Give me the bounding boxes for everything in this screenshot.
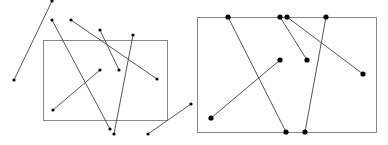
endpoint: [108, 127, 111, 130]
line-segment: [211, 60, 280, 118]
line-segment: [53, 70, 100, 110]
endpoint: [12, 78, 15, 81]
clip-rectangle: [198, 18, 377, 133]
endpoint: [117, 68, 120, 71]
endpoint: [304, 57, 309, 62]
line-segment: [280, 17, 307, 60]
line-segment: [114, 35, 133, 134]
line-segment: [228, 17, 286, 132]
line-segment: [148, 104, 191, 134]
line-segment: [52, 20, 110, 129]
before-clipping-panel: [12, 0, 192, 136]
endpoint: [98, 28, 101, 31]
endpoint: [225, 14, 230, 19]
endpoint: [112, 132, 115, 135]
line-segment: [305, 17, 326, 132]
endpoint: [323, 14, 328, 19]
endpoint: [283, 129, 288, 134]
endpoint: [277, 14, 282, 19]
endpoint: [69, 18, 72, 21]
after-clipping-panel: [198, 14, 377, 134]
endpoint: [146, 132, 149, 135]
endpoint: [50, 18, 53, 21]
endpoint: [131, 33, 134, 36]
endpoint: [98, 68, 101, 71]
endpoint: [284, 14, 289, 19]
endpoint: [51, 108, 54, 111]
endpoint: [189, 102, 192, 105]
line-clipping-diagram: [0, 0, 388, 145]
clip-rectangle: [44, 41, 168, 121]
line-segment: [71, 20, 157, 79]
endpoint: [155, 77, 158, 80]
endpoint: [360, 71, 365, 76]
endpoint: [277, 57, 282, 62]
line-segment: [100, 30, 119, 70]
endpoint: [208, 115, 213, 120]
endpoint: [302, 129, 307, 134]
